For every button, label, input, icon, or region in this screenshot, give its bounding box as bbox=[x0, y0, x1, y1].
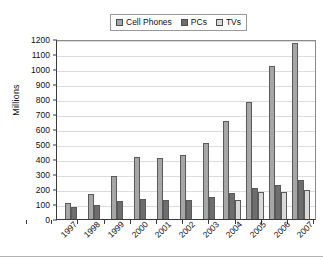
legend-entry-cell-phones: Cell Phones bbox=[116, 18, 172, 27]
y-axis-tick-mark bbox=[53, 145, 57, 146]
plot-area bbox=[56, 40, 316, 220]
bar-pcs-1998 bbox=[94, 205, 100, 219]
y-axis-title-text: Millions bbox=[11, 84, 21, 116]
bar-pcs-1999 bbox=[117, 201, 123, 219]
bar-pcs-2001 bbox=[163, 200, 169, 219]
legend-label-pcs: PCs bbox=[191, 18, 207, 27]
y-axis-tick-labels: 1200110010009008007006005004003002001000 bbox=[24, 40, 53, 220]
y-axis-tick-label: 900 bbox=[36, 80, 50, 90]
y-axis-tick-label: 500 bbox=[36, 140, 50, 150]
x-label-slot: 2002 bbox=[174, 224, 198, 256]
bars-layer bbox=[57, 41, 315, 219]
bar-tvs-2005 bbox=[258, 192, 264, 219]
x-label-slot: 1997 bbox=[56, 224, 80, 256]
bar-group-2007 bbox=[290, 41, 313, 219]
y-axis-tick-label: 1200 bbox=[31, 35, 50, 45]
legend-swatch-pcs bbox=[181, 19, 188, 26]
bar-group-2000 bbox=[128, 41, 151, 219]
y-axis-tick-mark bbox=[53, 175, 57, 176]
x-label-slot: 2007 bbox=[292, 224, 316, 256]
y-axis-tick-label: 400 bbox=[36, 155, 50, 165]
y-axis-tick-label: 800 bbox=[36, 95, 50, 105]
plot-wrapper: 1200110010009008007006005004003002001000 bbox=[24, 40, 316, 220]
y-axis-tick-mark bbox=[53, 220, 57, 221]
bar-pcs-2003 bbox=[209, 197, 215, 219]
y-axis-tick-mark bbox=[53, 40, 57, 41]
bar-group-1999 bbox=[105, 41, 128, 219]
y-axis-tick-mark bbox=[53, 115, 57, 116]
y-axis-tick-mark bbox=[53, 55, 57, 56]
x-label-slot: 1999 bbox=[103, 224, 127, 256]
y-axis-tick-mark bbox=[53, 160, 57, 161]
x-label-slot: 2005 bbox=[245, 224, 269, 256]
x-axis-tick-labels: 1997199819992000200120022003200420052006… bbox=[56, 224, 316, 256]
bar-chart-figure: Cell Phones PCs TVs Millions 12001100100… bbox=[0, 0, 323, 263]
bar-group-2006 bbox=[267, 41, 290, 219]
y-axis-tick-label: 700 bbox=[36, 110, 50, 120]
y-axis-tick-label: 300 bbox=[36, 170, 50, 180]
bar-group-2003 bbox=[198, 41, 221, 219]
bar-pcs-2002 bbox=[186, 200, 192, 220]
legend-swatch-tvs bbox=[216, 19, 223, 26]
y-axis-tick-label: 1100 bbox=[32, 50, 50, 60]
bar-group-1997 bbox=[59, 41, 82, 219]
bottom-divider bbox=[0, 256, 323, 257]
x-label-slot: 2001 bbox=[151, 224, 175, 256]
x-label-slot: 1998 bbox=[80, 224, 104, 256]
bar-group-1998 bbox=[82, 41, 105, 219]
bar-tvs-2007 bbox=[304, 190, 310, 219]
y-axis-tick-mark bbox=[53, 205, 57, 206]
y-axis-tick-label: 1000 bbox=[31, 65, 50, 75]
bar-group-2001 bbox=[151, 41, 174, 219]
legend-entry-pcs: PCs bbox=[181, 18, 207, 27]
x-label-slot: 2006 bbox=[269, 224, 293, 256]
y-axis-tick-label: 200 bbox=[36, 185, 50, 195]
y-axis-tick-mark bbox=[53, 85, 57, 86]
y-axis-tick-mark bbox=[53, 130, 57, 131]
y-axis-title: Millions bbox=[6, 0, 26, 200]
y-axis-tick-label: 600 bbox=[36, 125, 50, 135]
chart-legend: Cell Phones PCs TVs bbox=[110, 14, 247, 31]
bar-pcs-2000 bbox=[140, 199, 146, 219]
bar-tvs-2004 bbox=[235, 200, 241, 220]
bar-pcs-1997 bbox=[71, 207, 77, 219]
x-axis-tick-slot bbox=[26, 220, 52, 224]
bar-group-2002 bbox=[174, 41, 197, 219]
legend-entry-tvs: TVs bbox=[216, 18, 241, 27]
y-axis-tick-mark bbox=[53, 190, 57, 191]
bar-group-2005 bbox=[244, 41, 267, 219]
x-label-slot: 2003 bbox=[198, 224, 222, 256]
legend-label-cell-phones: Cell Phones bbox=[126, 18, 172, 27]
x-label-slot: 2004 bbox=[221, 224, 245, 256]
bar-group-2004 bbox=[221, 41, 244, 219]
y-axis-tick-mark bbox=[53, 70, 57, 71]
legend-label-tvs: TVs bbox=[226, 18, 241, 27]
y-axis-tick-mark bbox=[53, 100, 57, 101]
x-label-slot: 2000 bbox=[127, 224, 151, 256]
legend-swatch-cell-phones bbox=[116, 19, 123, 26]
y-axis-tick-label: 100 bbox=[36, 200, 50, 210]
bar-tvs-2006 bbox=[281, 192, 287, 219]
